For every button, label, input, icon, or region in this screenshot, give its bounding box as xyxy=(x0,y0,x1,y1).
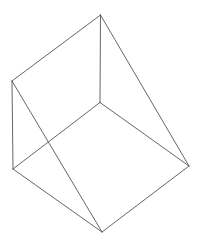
wedge-wireframe-diagram xyxy=(0,0,198,243)
edge-bottom-right xyxy=(102,166,189,232)
edge-top-right xyxy=(101,15,190,166)
edge-left_bottom-bottom xyxy=(13,169,102,232)
edge-left_top-bottom xyxy=(12,81,102,232)
edge-left_top-left_bottom xyxy=(12,81,13,169)
edge-top-left_top xyxy=(12,15,101,81)
edge-center-right xyxy=(100,103,189,167)
edge-top-center xyxy=(100,15,101,103)
edge-center-left_bottom xyxy=(13,103,100,170)
